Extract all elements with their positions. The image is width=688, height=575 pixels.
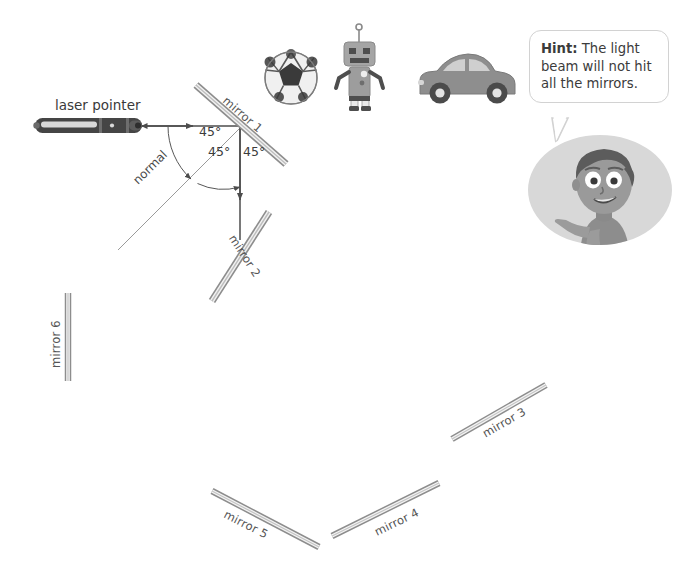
- scene-canvas: Hint: The light beam will not hit all th…: [0, 0, 688, 575]
- angle-mirror-label: 45°: [243, 146, 265, 159]
- angle-reflection-label: 45°: [208, 146, 230, 159]
- mirror-6-label: mirror 6: [51, 320, 63, 368]
- hint-speech-bubble: Hint: The light beam will not hit all th…: [529, 30, 669, 103]
- car-icon: [418, 54, 515, 104]
- laser-pointer[interactable]: [33, 118, 142, 133]
- angle-incidence-label: 45°: [199, 126, 221, 139]
- hint-prefix: Hint:: [541, 41, 578, 56]
- laser-pointer-label: laser pointer: [55, 99, 141, 113]
- boy-illustration: [528, 135, 676, 249]
- incident-beam: [141, 123, 240, 129]
- robot-icon: [336, 24, 383, 111]
- character-portrait: [524, 131, 676, 249]
- soccer-ball-icon: [265, 49, 318, 104]
- portrait-oval: [524, 131, 676, 249]
